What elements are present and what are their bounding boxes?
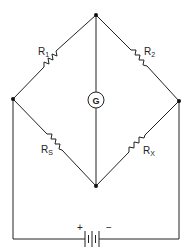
resistor-rx xyxy=(96,101,179,186)
resistor-r2 xyxy=(96,15,179,101)
node-right xyxy=(177,99,181,103)
node-left xyxy=(11,97,15,101)
galvanometer: G xyxy=(88,15,104,186)
galvanometer-label: G xyxy=(92,96,99,106)
wheatstone-bridge-diagram: G + − R1 R2 RS RX xyxy=(0,0,191,250)
node-top xyxy=(94,13,98,17)
label-rs: RS xyxy=(41,144,53,156)
battery-minus-label: − xyxy=(106,222,112,233)
resistor-r1 xyxy=(13,15,96,99)
label-r1: R1 xyxy=(38,46,49,58)
label-r2: R2 xyxy=(144,46,155,58)
label-rx: RX xyxy=(143,145,155,157)
resistor-rs xyxy=(13,99,96,186)
battery-plus-label: + xyxy=(77,222,83,233)
node-bottom xyxy=(94,184,98,188)
battery-icon: + − xyxy=(77,222,112,247)
